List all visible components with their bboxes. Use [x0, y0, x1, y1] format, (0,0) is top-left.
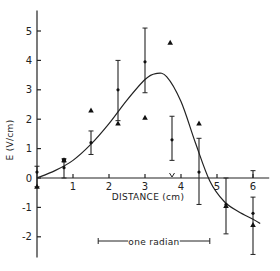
data-dot: [197, 171, 200, 174]
v-marker: [170, 173, 175, 177]
y-tick-label: 5: [26, 26, 32, 37]
triangle-marker: [196, 121, 202, 126]
y-tick-label: -1: [22, 202, 32, 213]
data-dot: [89, 141, 92, 144]
x-tick-label: 6: [250, 181, 256, 192]
data-dot: [116, 88, 119, 91]
triangle-marker: [142, 115, 148, 120]
y-axis-title: E (V/cm): [5, 120, 15, 161]
x-tick-label: 4: [178, 181, 184, 192]
y-tick-label: 2: [26, 114, 32, 125]
square-marker: [62, 158, 66, 162]
y-tick-label: 4: [26, 55, 32, 66]
data-dot: [62, 166, 65, 169]
chart: -2-1012345123456 one radian DISTANCE (cm…: [0, 0, 280, 271]
data-dot: [251, 212, 254, 215]
data-dot: [170, 138, 173, 141]
triangle-marker: [167, 40, 173, 45]
x-tick-label: 3: [142, 181, 148, 192]
annotations: one radian: [98, 173, 210, 247]
triangle-marker: [250, 222, 256, 227]
y-tick-label: 0: [26, 173, 32, 184]
x-tick-label: 1: [70, 181, 76, 192]
x-axis-title: DISTANCE (cm): [112, 192, 184, 202]
data-dot: [35, 171, 38, 174]
triangle-marker: [115, 121, 121, 126]
data-dot: [143, 60, 146, 63]
y-tick-label: 3: [26, 84, 32, 95]
y-tick-label: -2: [22, 231, 32, 242]
scale-bar-label: one radian: [128, 237, 179, 247]
x-tick-label: 2: [106, 181, 112, 192]
tick-labels: -2-1012345123456: [22, 26, 256, 243]
y-tick-label: 1: [26, 143, 32, 154]
triangle-marker: [88, 107, 94, 112]
axes: [37, 10, 269, 257]
